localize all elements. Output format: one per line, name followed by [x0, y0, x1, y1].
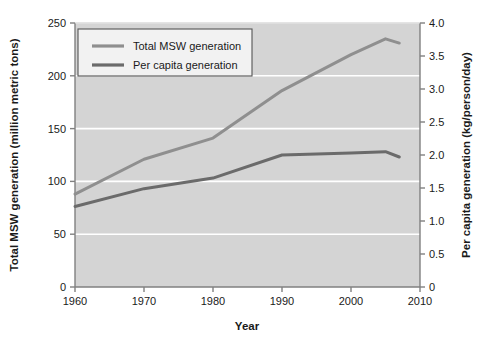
x-tick-label: 2010 [408, 295, 432, 307]
legend-label-1: Per capita generation [133, 59, 238, 71]
right-tick-label: 0.5 [429, 248, 444, 260]
x-tick-label: 2000 [339, 295, 363, 307]
right-tick-label: 0 [429, 281, 435, 293]
right-axis-tick-labels: 00.51.01.52.02.53.03.54.0 [429, 17, 444, 293]
left-tick-label: 200 [48, 70, 66, 82]
right-tick-label: 2.5 [429, 116, 444, 128]
right-tick-label: 1.0 [429, 215, 444, 227]
left-tick-label: 0 [60, 281, 66, 293]
right-tick-label: 1.5 [429, 182, 444, 194]
msw-generation-line-chart: 050100150200250 00.51.01.52.02.53.03.54.… [0, 0, 486, 345]
x-tick-label: 1980 [201, 295, 225, 307]
left-tick-label: 150 [48, 123, 66, 135]
legend-label-0: Total MSW generation [133, 40, 241, 52]
chart-legend: Total MSW generationPer capita generatio… [78, 29, 252, 76]
x-tick-label: 1990 [270, 295, 294, 307]
right-axis-title: Per capita generation (kg/person/day) [460, 52, 472, 258]
right-tick-label: 2.0 [429, 149, 444, 161]
x-axis-title: Year [235, 320, 260, 332]
right-tick-label: 3.0 [429, 83, 444, 95]
x-tick-label: 1960 [63, 295, 87, 307]
left-axis-title: Total MSW generation (million metric ton… [8, 38, 20, 271]
left-tick-label: 50 [54, 228, 66, 240]
left-tick-label: 100 [48, 175, 66, 187]
chart-figure: 050100150200250 00.51.01.52.02.53.03.54.… [0, 0, 486, 345]
right-tick-label: 3.5 [429, 50, 444, 62]
left-tick-label: 250 [48, 17, 66, 29]
right-tick-label: 4.0 [429, 17, 444, 29]
x-tick-label: 1970 [132, 295, 156, 307]
